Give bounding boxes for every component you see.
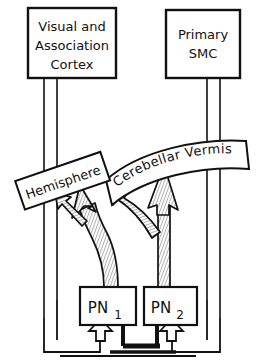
primary-smc-label-line2: SMC (189, 46, 218, 61)
visual-cortex-label-line1: Visual and (38, 19, 105, 34)
visual-cortex-label-line3: Cortex (51, 57, 94, 72)
pn1-label-main: PN (88, 299, 108, 317)
node-primary-smc[interactable]: Primary SMC (166, 10, 240, 78)
pn2-label-subscript: 2 (176, 308, 184, 322)
visual-cortex-label-line2: Association (35, 38, 109, 53)
pn1-label-subscript: 1 (114, 308, 122, 322)
tract-pn1-ascending (80, 203, 118, 287)
node-pn1[interactable]: PN 1 (80, 287, 136, 325)
node-pn2[interactable]: PN 2 (144, 287, 197, 325)
diagram-svg: Visual and Association Cortex Primary SM… (0, 0, 256, 364)
node-cerebellar-vermis[interactable]: Cerebellar Vermis (106, 141, 249, 205)
primary-smc-label-line1: Primary (178, 27, 229, 42)
node-visual-cortex[interactable]: Visual and Association Cortex (28, 8, 116, 78)
edge-smc-to-pn2-descending (207, 78, 220, 318)
diagram-canvas: Visual and Association Cortex Primary SM… (0, 0, 256, 364)
pn2-label-main: PN (151, 299, 171, 317)
